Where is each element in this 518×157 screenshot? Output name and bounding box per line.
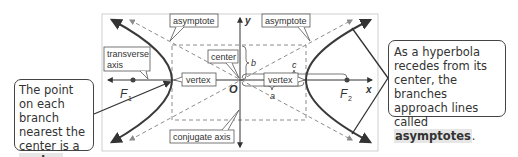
svg-text:asymptote: asymptote <box>173 16 215 26</box>
focus-2-subscript: 2 <box>348 95 352 102</box>
origin-label: O <box>229 83 238 95</box>
svg-text:vertex: vertex <box>186 75 211 85</box>
vertex-callout-text: The point on each branch nearest the cen… <box>19 83 85 153</box>
svg-text:asymptote: asymptote <box>265 16 307 26</box>
hyperbola-diagram: y x O F 1 F 2 b c a asymptote asymptote … <box>0 0 518 157</box>
svg-text:axis: axis <box>107 60 124 70</box>
svg-text:transverse: transverse <box>107 49 149 59</box>
asymptote-callout-text: As a hyperbola recedes from its center, … <box>394 45 487 129</box>
asymptote-callout-end: . <box>472 129 476 143</box>
x-axis-label: x <box>365 84 372 95</box>
b-label: b <box>251 58 256 68</box>
svg-text:vertex: vertex <box>268 75 293 85</box>
vertex-definition-callout: The point on each branch nearest the cen… <box>14 79 94 151</box>
focus-1-point <box>131 78 136 83</box>
svg-text:conjugate axis: conjugate axis <box>173 132 231 142</box>
focus-2-point <box>345 78 350 83</box>
svg-text:center: center <box>211 52 236 62</box>
c-label: c <box>292 60 297 70</box>
asymptotes-term: asymptotes <box>394 129 472 143</box>
vertex-term: vertex <box>19 153 63 157</box>
a-label: a <box>270 91 275 101</box>
focus-1-label: F <box>120 87 128 101</box>
focus-2-label: F <box>340 87 348 101</box>
vertex-callout-end: . <box>63 153 67 157</box>
asymptote-definition-callout: As a hyperbola recedes from its center, … <box>388 40 506 117</box>
y-axis-label: y <box>244 15 251 26</box>
